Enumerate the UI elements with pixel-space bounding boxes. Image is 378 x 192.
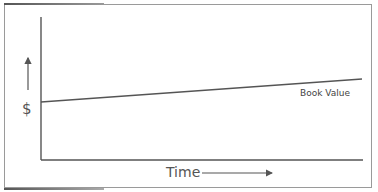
x-axis-label: Time xyxy=(166,164,200,180)
y-axis-label: $ xyxy=(22,100,32,118)
book-value-label: Book Value xyxy=(300,88,350,98)
